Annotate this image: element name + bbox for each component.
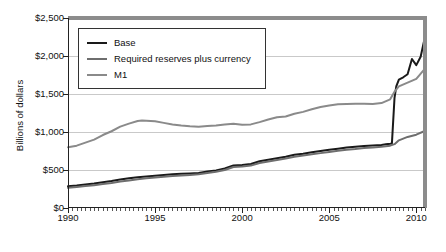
x-tick-label: 2000 — [232, 212, 253, 223]
y-tick-label: $1,500 — [35, 88, 64, 99]
x-minor-tick — [125, 208, 126, 211]
x-minor-tick — [342, 208, 343, 211]
x-minor-tick — [255, 208, 256, 211]
legend-swatch — [87, 74, 107, 76]
x-minor-tick — [408, 208, 409, 211]
x-minor-tick — [81, 208, 82, 211]
x-minor-tick — [238, 208, 239, 211]
y-tick-label: $1,000 — [35, 126, 64, 137]
x-minor-tick — [412, 208, 413, 211]
x-minor-tick — [103, 208, 104, 211]
x-minor-tick — [399, 208, 400, 211]
y-tick-label: $2,000 — [35, 50, 64, 61]
x-minor-tick — [233, 208, 234, 211]
x-minor-tick — [421, 208, 422, 211]
x-minor-tick — [347, 208, 348, 211]
x-minor-tick — [181, 208, 182, 211]
x-tick-label: 1990 — [57, 212, 78, 223]
x-minor-tick — [112, 208, 113, 211]
x-minor-tick — [225, 208, 226, 211]
legend-item[interactable]: Required reserves plus currency — [87, 51, 257, 67]
legend-swatch — [87, 42, 107, 44]
x-minor-tick — [321, 208, 322, 211]
x-minor-tick — [186, 208, 187, 211]
x-minor-tick — [307, 208, 308, 211]
x-minor-tick — [338, 208, 339, 211]
x-minor-tick — [212, 208, 213, 211]
x-minor-tick — [129, 208, 130, 211]
x-minor-tick — [159, 208, 160, 211]
x-minor-tick — [360, 208, 361, 211]
y-axis-ticks: $0$500$1,000$1,500$2,000$2,500 — [0, 0, 64, 252]
legend-item[interactable]: Base — [87, 35, 257, 51]
x-minor-tick — [142, 208, 143, 211]
x-minor-tick — [251, 208, 252, 211]
x-minor-tick — [168, 208, 169, 211]
x-minor-tick — [177, 208, 178, 211]
x-minor-tick — [133, 208, 134, 211]
x-minor-tick — [199, 208, 200, 211]
x-minor-tick — [312, 208, 313, 211]
x-minor-tick — [390, 208, 391, 211]
x-tick-label: 2005 — [319, 212, 340, 223]
x-minor-tick — [172, 208, 173, 211]
chart-container: Billions of dollars $0$500$1,000$1,500$2… — [0, 0, 446, 252]
x-minor-tick — [98, 208, 99, 211]
x-minor-tick — [403, 208, 404, 211]
x-tick-label: 2010 — [406, 212, 427, 223]
x-minor-tick — [425, 208, 426, 211]
x-minor-tick — [334, 208, 335, 211]
legend-label: Base — [114, 35, 136, 51]
y-axis-line — [68, 18, 69, 208]
x-minor-tick — [325, 208, 326, 211]
x-minor-tick — [395, 208, 396, 211]
x-minor-tick — [207, 208, 208, 211]
x-minor-tick — [146, 208, 147, 211]
x-minor-tick — [151, 208, 152, 211]
x-minor-tick — [386, 208, 387, 211]
x-minor-tick — [194, 208, 195, 211]
x-minor-tick — [72, 208, 73, 211]
x-minor-tick — [120, 208, 121, 211]
x-minor-tick — [355, 208, 356, 211]
x-minor-tick — [381, 208, 382, 211]
y-tick-label: $500 — [43, 164, 64, 175]
x-minor-tick — [260, 208, 261, 211]
x-minor-tick — [294, 208, 295, 211]
x-minor-tick — [281, 208, 282, 211]
legend-item[interactable]: M1 — [87, 67, 257, 83]
x-minor-tick — [377, 208, 378, 211]
x-minor-tick — [220, 208, 221, 211]
x-minor-tick — [373, 208, 374, 211]
x-minor-tick — [299, 208, 300, 211]
chart-legend: BaseRequired reserves plus currencyM1 — [78, 28, 266, 89]
x-minor-tick — [351, 208, 352, 211]
x-minor-tick — [85, 208, 86, 211]
x-minor-tick — [138, 208, 139, 211]
x-minor-tick — [277, 208, 278, 211]
x-minor-tick — [216, 208, 217, 211]
x-minor-tick — [77, 208, 78, 211]
x-tick-label: 1995 — [144, 212, 165, 223]
x-minor-tick — [268, 208, 269, 211]
legend-label: Required reserves plus currency — [114, 51, 251, 67]
x-minor-tick — [164, 208, 165, 211]
x-minor-tick — [229, 208, 230, 211]
x-minor-tick — [203, 208, 204, 211]
x-minor-tick — [264, 208, 265, 211]
x-minor-tick — [303, 208, 304, 211]
x-minor-tick — [368, 208, 369, 211]
x-minor-tick — [290, 208, 291, 211]
x-minor-tick — [364, 208, 365, 211]
x-minor-tick — [94, 208, 95, 211]
plot-frame-right — [423, 16, 427, 208]
x-minor-tick — [316, 208, 317, 211]
plot-frame-top — [68, 16, 427, 20]
x-minor-tick — [247, 208, 248, 211]
x-minor-tick — [90, 208, 91, 211]
legend-swatch — [87, 58, 107, 60]
y-tick-label: $2,500 — [35, 12, 64, 23]
x-minor-tick — [116, 208, 117, 211]
x-minor-tick — [190, 208, 191, 211]
x-minor-tick — [286, 208, 287, 211]
